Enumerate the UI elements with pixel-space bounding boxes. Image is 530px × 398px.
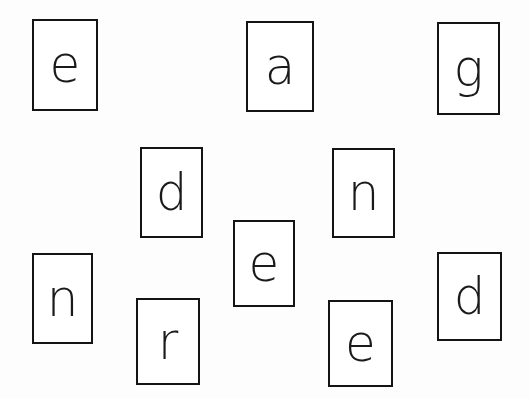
letter-e: e: [249, 238, 280, 289]
letter-card-d-right[interactable]: d: [437, 252, 502, 341]
letter-card-n-left[interactable]: n: [32, 253, 93, 344]
letter-d: d: [454, 271, 486, 322]
letter-card-a[interactable]: a: [246, 21, 314, 112]
letter-card-e-bottom[interactable]: e: [328, 300, 393, 387]
letter-card-r[interactable]: r: [136, 298, 200, 385]
letter-card-d-middle[interactable]: d: [140, 147, 203, 238]
letter-card-g[interactable]: g: [437, 22, 500, 115]
letter-card-e-center[interactable]: e: [233, 220, 295, 307]
letter-n: n: [348, 168, 380, 219]
letter-card-e-top-left[interactable]: e: [32, 19, 98, 111]
letter-card-n-right[interactable]: n: [332, 148, 395, 238]
letter-e: e: [50, 40, 81, 91]
letter-e: e: [345, 318, 376, 369]
letter-g: g: [453, 43, 483, 94]
letter-d: d: [156, 167, 188, 218]
letter-r: r: [158, 316, 179, 367]
letter-a: a: [265, 41, 296, 92]
letter-n: n: [47, 273, 79, 324]
